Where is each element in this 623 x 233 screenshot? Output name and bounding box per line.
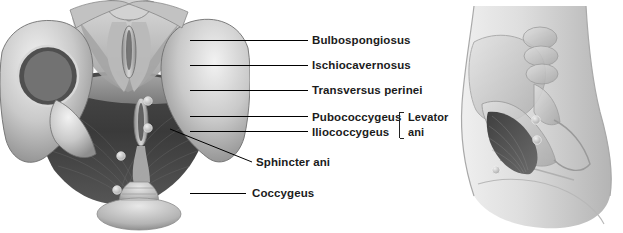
vaginal-canal <box>126 30 132 70</box>
figure-root: Bulbospongiosus Ischiocavernosus Transve… <box>0 0 623 233</box>
marker-pubis <box>492 166 500 174</box>
torso-orientation-illustration <box>448 0 623 233</box>
anal-lumen <box>138 103 144 141</box>
label-ischiocavernosus: Ischiocavernosus <box>312 59 411 71</box>
levator-ani-bracket <box>399 112 400 138</box>
label-coccygeus: Coccygeus <box>252 187 314 199</box>
marker-upper <box>532 116 540 124</box>
label-pubococcygeus: Pubococcygeus <box>312 111 402 123</box>
label-bulbospongiosus: Bulbospongiosus <box>312 34 411 46</box>
sacrum-base <box>97 198 181 230</box>
marker-lower <box>533 136 541 144</box>
label-levator-ani-line1: Levator <box>408 111 448 123</box>
label-transversus-perinei: Transversus perinei <box>312 84 423 96</box>
pelvic-floor-illustration <box>0 0 250 233</box>
label-levator-ani-line2: ani <box>408 126 424 138</box>
obturator-membrane-left <box>24 51 72 101</box>
label-iliococcygeus: Iliococcygeus <box>312 126 389 138</box>
label-sphincter-ani: Sphincter ani <box>256 156 330 168</box>
